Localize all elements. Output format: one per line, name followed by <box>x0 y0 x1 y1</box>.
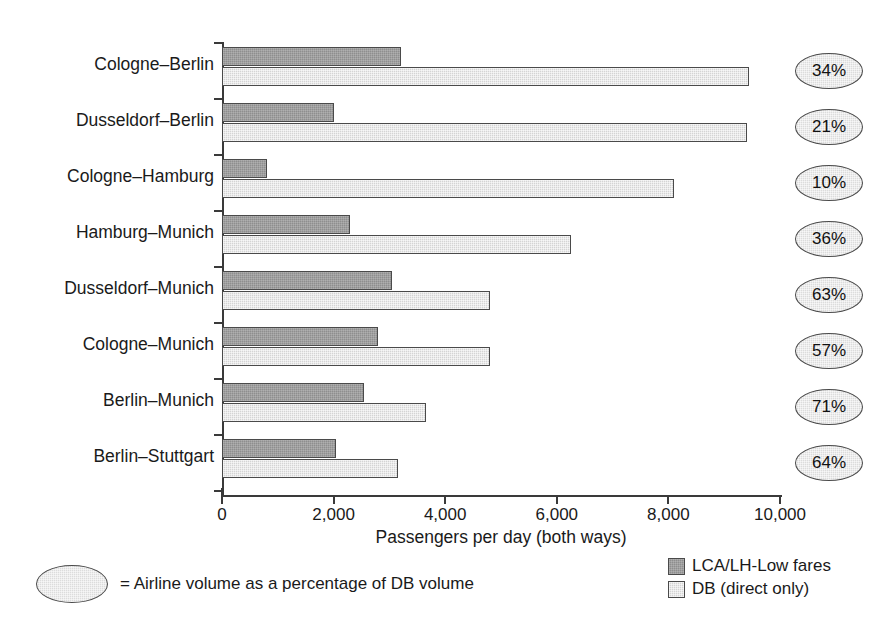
category-label: Berlin–Munich <box>24 390 214 411</box>
legend-swatch-icon <box>668 558 685 575</box>
bar-row: Cologne–Hamburg <box>0 154 893 210</box>
bar-row: Cologne–Berlin <box>0 42 893 98</box>
x-tick-2000 <box>333 495 335 504</box>
bar-airline <box>222 47 401 66</box>
bar-airline <box>222 327 378 346</box>
percentage-badge: 21% <box>795 109 863 145</box>
bar-row: Berlin–Munich <box>0 378 893 434</box>
category-label-wrap: Berlin–Munich <box>18 378 214 434</box>
x-tick-10000 <box>779 495 781 504</box>
bar-row: Dusseldorf–Berlin <box>0 98 893 154</box>
x-tick-label-8000: 8,000 <box>647 505 690 525</box>
x-tick-6000 <box>556 495 558 504</box>
bar-rail <box>222 123 747 142</box>
bar-rail <box>222 291 490 310</box>
percentage-badge: 36% <box>795 221 863 257</box>
category-label-wrap: Cologne–Hamburg <box>18 154 214 210</box>
bar-rail <box>222 347 490 366</box>
category-label: Cologne–Hamburg <box>24 166 214 187</box>
bar-row: Cologne–Munich <box>0 322 893 378</box>
bar-rail <box>222 179 674 198</box>
bar-rail <box>222 403 426 422</box>
category-label: Dusseldorf–Munich <box>24 278 214 299</box>
category-label: Cologne–Berlin <box>24 54 214 75</box>
bar-airline <box>222 271 392 290</box>
percentage-badge: 71% <box>795 389 863 425</box>
footnote: = Airline volume as a percentage of DB v… <box>36 565 474 603</box>
ellipse-legend-icon <box>36 565 108 603</box>
x-axis-line <box>222 495 782 497</box>
bar-airline <box>222 159 267 178</box>
bar-rail <box>222 459 398 478</box>
bar-airline <box>222 215 350 234</box>
x-axis-title: Passengers per day (both ways) <box>222 527 780 548</box>
percentage-badge: 57% <box>795 333 863 369</box>
x-tick-label-0: 0 <box>217 505 226 525</box>
percentage-badge: 34% <box>795 53 863 89</box>
percentage-badge: 10% <box>795 165 863 201</box>
bar-airline <box>222 439 336 458</box>
legend-item: LCA/LH-Low fares <box>668 556 831 576</box>
legend-label: DB (direct only) <box>692 579 809 599</box>
bar-row: Hamburg–Munich <box>0 210 893 266</box>
x-tick-label-10000: 10,000 <box>754 505 806 525</box>
category-label-wrap: Cologne–Munich <box>18 322 214 378</box>
percentage-badge: 63% <box>795 277 863 313</box>
legend-label: LCA/LH-Low fares <box>692 556 831 576</box>
x-tick-label-6000: 6,000 <box>536 505 579 525</box>
category-label-wrap: Dusseldorf–Berlin <box>18 98 214 154</box>
x-tick-label-4000: 4,000 <box>424 505 467 525</box>
bar-row: Berlin–Stuttgart <box>0 434 893 490</box>
x-tick-8000 <box>667 495 669 504</box>
footnote-text: = Airline volume as a percentage of DB v… <box>120 574 474 594</box>
x-tick-label-2000: 2,000 <box>312 505 355 525</box>
bar-rail <box>222 67 749 86</box>
category-label: Dusseldorf–Berlin <box>24 110 214 131</box>
bar-airline <box>222 103 334 122</box>
y-tick-8 <box>214 490 223 492</box>
category-label-wrap: Cologne–Berlin <box>18 42 214 98</box>
bar-row: Dusseldorf–Munich <box>0 266 893 322</box>
category-label-wrap: Hamburg–Munich <box>18 210 214 266</box>
category-label-wrap: Berlin–Stuttgart <box>18 434 214 490</box>
legend: LCA/LH-Low faresDB (direct only) <box>668 556 831 602</box>
category-label: Cologne–Munich <box>24 334 214 355</box>
bar-chart: 02,0004,0006,0008,00010,000 Cologne–Berl… <box>0 0 893 620</box>
bar-rail <box>222 235 571 254</box>
bar-airline <box>222 383 364 402</box>
category-label: Berlin–Stuttgart <box>24 446 214 467</box>
x-tick-4000 <box>444 495 446 504</box>
legend-swatch-icon <box>668 581 685 598</box>
category-label-wrap: Dusseldorf–Munich <box>18 266 214 322</box>
legend-item: DB (direct only) <box>668 579 831 599</box>
percentage-badge: 64% <box>795 445 863 481</box>
category-label: Hamburg–Munich <box>24 222 214 243</box>
